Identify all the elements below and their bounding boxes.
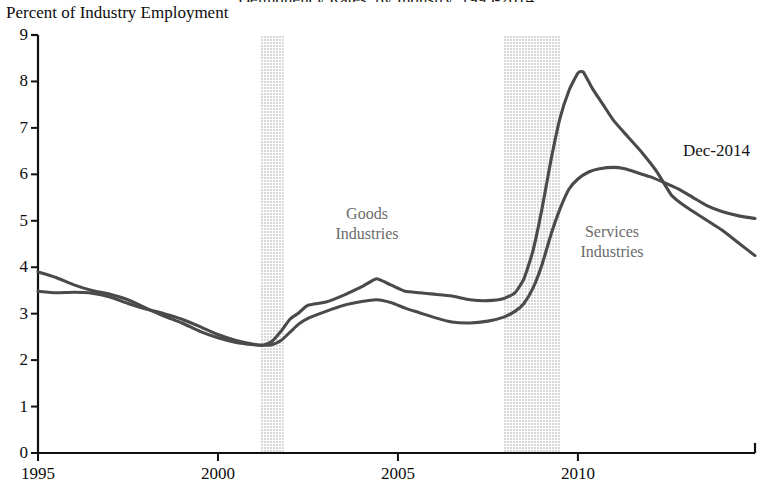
series-label-goods: Goods Industries — [312, 204, 422, 244]
end-point-label: Dec-2014 — [683, 141, 750, 161]
series-label-services-line2: Industries — [580, 243, 643, 260]
recession-bands-group — [260, 35, 560, 453]
y-tick-label: 1 — [2, 398, 28, 415]
series-label-goods-line2: Industries — [335, 225, 398, 242]
chart-container: Delinquency Rates, by Industry, 1995-201… — [0, 0, 772, 480]
x-tick-label: 1995 — [21, 465, 55, 480]
series-label-goods-line1: Goods — [346, 205, 388, 222]
y-tick-label: 0 — [2, 444, 28, 461]
x-tick-label: 2005 — [381, 465, 415, 480]
x-tick-label: 2010 — [561, 465, 595, 480]
recession-band-recession-2008 — [503, 35, 560, 453]
y-tick-label: 6 — [2, 165, 28, 182]
x-tick-label: 2000 — [201, 465, 235, 480]
recession-band-recession-2001 — [260, 35, 284, 453]
y-tick-label: 5 — [2, 212, 28, 229]
series-label-services: Services Industries — [557, 222, 667, 262]
y-tick-label: 8 — [2, 72, 28, 89]
series-label-services-line1: Services — [585, 223, 639, 240]
y-tick-label: 4 — [2, 258, 28, 275]
y-tick-label: 7 — [2, 119, 28, 136]
y-tick-label: 9 — [2, 26, 28, 43]
y-tick-label: 2 — [2, 351, 28, 368]
y-tick-label: 3 — [2, 305, 28, 322]
